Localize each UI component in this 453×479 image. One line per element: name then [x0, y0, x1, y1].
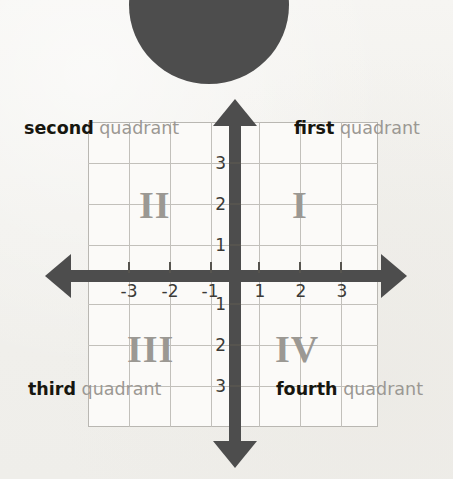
caption-ordinal: third — [28, 379, 76, 399]
quadrant-numeral-iii: III — [127, 330, 174, 368]
quadrant-numeral-ii: II — [139, 186, 171, 224]
y-tick-label-neg3: 3 — [204, 378, 226, 395]
y-tick-label-3: 3 — [204, 155, 226, 172]
x-tick-label-neg2: -2 — [157, 283, 183, 300]
x-axis-tick — [258, 262, 260, 273]
y-axis-tick — [230, 344, 241, 346]
y-axis-tick — [230, 244, 241, 246]
caption-word: quadrant — [99, 118, 179, 138]
x-tick-label-neg3: -3 — [116, 283, 142, 300]
caption-word: quadrant — [340, 118, 420, 138]
caption-first-quadrant: first quadrant — [294, 120, 420, 138]
y-axis-tick — [230, 162, 241, 164]
x-tick-label-3: 3 — [329, 283, 355, 300]
x-tick-label-2: 2 — [288, 283, 314, 300]
coordinate-plane: -3 -2 -1 1 2 3 3 2 1 1 2 3 I II III IV s… — [0, 0, 453, 479]
quadrant-numeral-iv: IV — [275, 330, 319, 368]
y-axis — [229, 124, 241, 448]
y-tick-label-neg1: 1 — [204, 296, 226, 313]
x-axis-tick — [169, 262, 171, 273]
y-axis-down-arrow-icon — [213, 441, 257, 468]
y-tick-label-neg2: 2 — [204, 337, 226, 354]
caption-word: quadrant — [343, 379, 423, 399]
x-axis-tick — [210, 262, 212, 273]
caption-ordinal: fourth — [276, 379, 338, 399]
caption-fourth-quadrant: fourth quadrant — [276, 381, 423, 399]
x-axis-right-arrow-icon — [381, 254, 407, 298]
x-tick-label-1: 1 — [247, 283, 273, 300]
x-axis-tick — [128, 262, 130, 273]
x-axis-left-arrow-icon — [45, 254, 71, 298]
x-axis-tick — [299, 262, 301, 273]
x-axis-tick — [340, 262, 342, 273]
caption-second-quadrant: second quadrant — [24, 120, 179, 138]
quadrant-numeral-i: I — [292, 186, 308, 224]
y-axis-tick — [230, 203, 241, 205]
caption-word: quadrant — [82, 379, 162, 399]
y-axis-up-arrow-icon — [213, 99, 257, 126]
y-tick-label-2: 2 — [204, 196, 226, 213]
caption-third-quadrant: third quadrant — [28, 381, 161, 399]
y-axis-tick — [230, 303, 241, 305]
figure-canvas: -3 -2 -1 1 2 3 3 2 1 1 2 3 I II III IV s… — [0, 0, 453, 479]
y-tick-label-1: 1 — [204, 237, 226, 254]
y-axis-tick — [230, 385, 241, 387]
caption-ordinal: second — [24, 118, 94, 138]
caption-ordinal: first — [294, 118, 334, 138]
